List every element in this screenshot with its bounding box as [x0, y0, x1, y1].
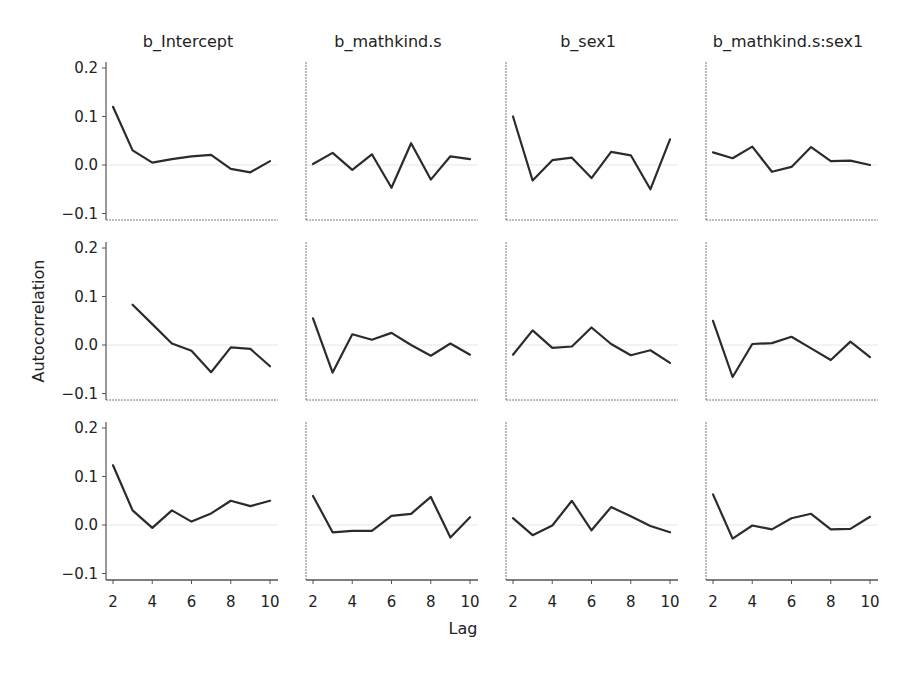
facet-title: b_Intercept — [143, 32, 233, 52]
autocorrelation-line — [713, 321, 870, 377]
x-tick-label: 4 — [547, 593, 557, 611]
x-tick-label: 8 — [426, 593, 436, 611]
x-tick-label: 10 — [660, 593, 679, 611]
x-tick-label: 4 — [147, 593, 157, 611]
x-tick-label: 2 — [308, 593, 318, 611]
y-tick-label: 0.0 — [74, 156, 98, 174]
x-tick-label: 2 — [108, 593, 118, 611]
y-tick-label: −0.1 — [62, 205, 98, 223]
x-tick-label: 6 — [187, 593, 197, 611]
y-tick-label: 0.1 — [74, 108, 98, 126]
y-tick-label: −0.1 — [62, 565, 98, 583]
facet-panel — [506, 62, 678, 220]
x-tick-label: 8 — [226, 593, 236, 611]
autocorrelation-line — [313, 496, 470, 538]
y-tick-label: 0.2 — [74, 59, 98, 77]
facet-title: b_sex1 — [560, 32, 616, 52]
y-tick-label: 0.2 — [74, 419, 98, 437]
autocorrelation-facet-chart: b_Interceptb_mathkind.sb_sex1b_mathkind.… — [0, 0, 914, 687]
x-tick-label: 10 — [860, 593, 879, 611]
facet-title: b_mathkind.s — [334, 32, 441, 52]
facet-panel — [706, 242, 878, 400]
facet-panel: −0.10.00.10.2 — [62, 59, 278, 223]
y-tick-label: 0.1 — [74, 288, 98, 306]
x-tick-label: 8 — [626, 593, 636, 611]
facet-panel — [306, 62, 478, 220]
facet-panel: 246810 — [706, 422, 880, 611]
facet-panel — [306, 242, 478, 400]
x-tick-label: 2 — [508, 593, 518, 611]
autocorrelation-line — [513, 501, 670, 535]
facet-panel: 246810 — [306, 422, 480, 611]
x-tick-label: 10 — [260, 593, 279, 611]
y-tick-label: 0.1 — [74, 468, 98, 486]
autocorrelation-line — [513, 117, 670, 190]
x-tick-label: 2 — [708, 593, 718, 611]
y-tick-label: 0.2 — [74, 239, 98, 257]
x-tick-label: 6 — [387, 593, 397, 611]
autocorrelation-line — [713, 494, 870, 538]
facet-panel: 246810 — [506, 422, 680, 611]
y-axis-label: Autocorrelation — [29, 260, 48, 383]
x-tick-label: 10 — [460, 593, 479, 611]
autocorrelation-line — [113, 465, 270, 528]
facet-panel — [506, 242, 678, 400]
y-tick-label: 0.0 — [74, 516, 98, 534]
y-tick-label: 0.0 — [74, 336, 98, 354]
autocorrelation-line — [713, 147, 870, 172]
facet-title: b_mathkind.s:sex1 — [713, 32, 863, 52]
x-axis-label: Lag — [449, 619, 478, 638]
x-tick-label: 4 — [747, 593, 757, 611]
x-tick-label: 6 — [787, 593, 797, 611]
autocorrelation-line — [113, 107, 270, 173]
facet-panel: −0.10.00.10.2 — [62, 239, 278, 403]
facet-panel — [706, 62, 878, 220]
x-tick-label: 8 — [826, 593, 836, 611]
facet-panels: b_Interceptb_mathkind.sb_sex1b_mathkind.… — [62, 32, 880, 611]
x-tick-label: 6 — [587, 593, 597, 611]
autocorrelation-line — [133, 305, 270, 373]
x-tick-label: 4 — [347, 593, 357, 611]
facet-panel: −0.10.00.10.2246810 — [62, 419, 280, 611]
y-tick-label: −0.1 — [62, 385, 98, 403]
